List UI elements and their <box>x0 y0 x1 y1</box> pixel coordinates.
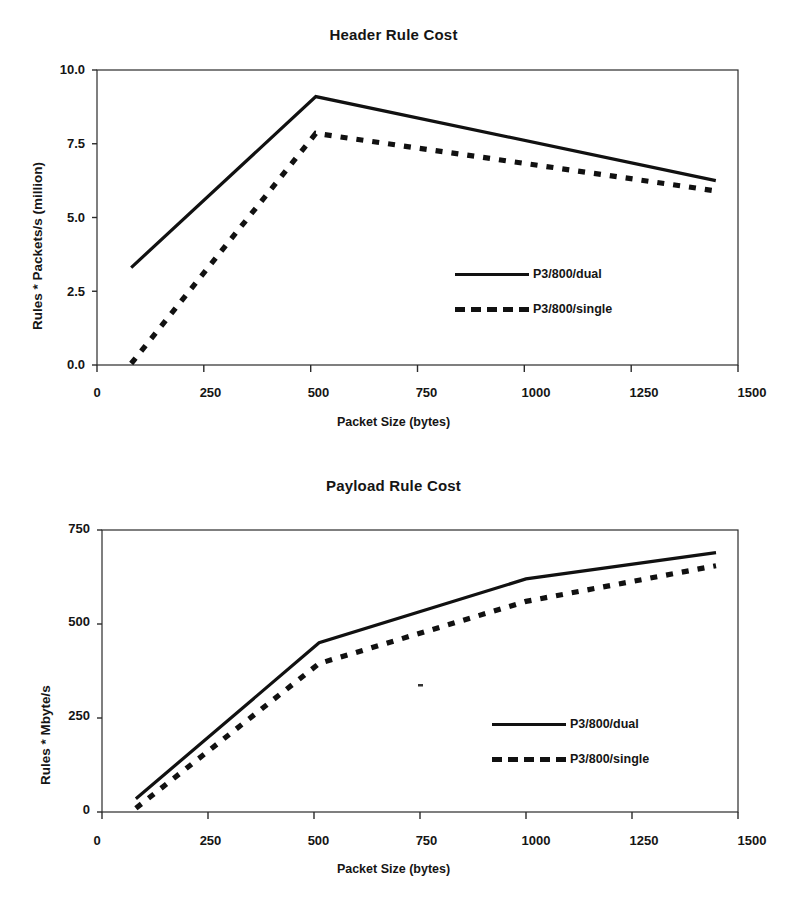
x-axis-label: Packet Size (bytes) <box>0 415 787 429</box>
chart-legend: P3/800/dual P3/800/single <box>455 263 612 320</box>
legend-label: P3/800/dual <box>570 717 639 731</box>
legend-swatch-solid-icon <box>492 723 566 726</box>
legend-swatch-dashed-icon <box>455 307 529 312</box>
x-axis-label: Packet Size (bytes) <box>0 862 787 876</box>
legend-label: P3/800/dual <box>533 267 602 281</box>
series-line-dual <box>131 97 716 268</box>
series-line-single <box>131 133 716 363</box>
chart-legend: P3/800/dual P3/800/single <box>492 713 649 770</box>
plot-area-header <box>0 0 787 455</box>
scan-speck <box>418 684 423 687</box>
plot-area-payload <box>0 455 787 911</box>
legend-item-dual: P3/800/dual <box>455 263 612 285</box>
series-line-single <box>136 566 716 809</box>
legend-item-single: P3/800/single <box>455 298 612 320</box>
chart-payload-rule-cost: Payload Rule Cost Rules * Mbyte/s 750 50… <box>0 455 787 911</box>
legend-label: P3/800/single <box>570 752 649 766</box>
legend-swatch-dashed-icon <box>492 757 566 762</box>
chart-header-rule-cost: Header Rule Cost Rules * Packets/s (mill… <box>0 0 787 455</box>
legend-swatch-solid-icon <box>455 273 529 276</box>
legend-item-dual: P3/800/dual <box>492 713 649 735</box>
legend-label: P3/800/single <box>533 302 612 316</box>
legend-item-single: P3/800/single <box>492 748 649 770</box>
